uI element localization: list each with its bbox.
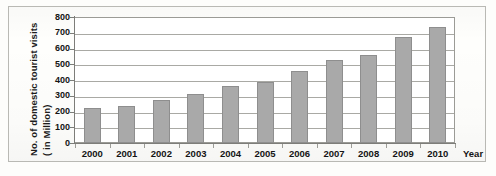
bar [222,86,239,143]
bar [429,27,446,143]
x-axis-tick-labels: 2000200120022003200420052006200720082009… [75,148,455,162]
bar [153,100,170,143]
x-axis-tick [455,144,456,148]
y-axis-tick-label: 800 [30,13,70,22]
chart-screenshot: No. of domestic tourist visits ( in Mill… [0,0,496,176]
bar [395,37,412,143]
x-axis-tick-label: 2002 [144,148,178,159]
x-axis-tick-label: 2001 [110,148,144,159]
y-axis-tick-label: 200 [30,107,70,116]
x-axis-title: Year [463,148,483,159]
bar-series [75,17,455,143]
bar [257,82,274,143]
bar [360,55,377,143]
bar [84,108,101,143]
y-axis-tick-label: 500 [30,60,70,69]
x-axis-tick-label: 2005 [248,148,282,159]
y-axis-tick-label: 600 [30,44,70,53]
y-axis-tick-label: 100 [30,123,70,132]
x-axis-tick-label: 2007 [317,148,351,159]
bar [187,94,204,143]
x-axis-tick-label: 2000 [75,148,109,159]
x-axis-line [74,143,456,144]
bar [291,71,308,143]
bar-chart: No. of domestic tourist visits ( in Mill… [0,0,496,176]
x-axis-tick-label: 2004 [213,148,247,159]
y-axis-tick-label: 300 [30,91,70,100]
y-axis-tick-label: 0 [30,139,70,148]
y-axis-tick-label: 700 [30,28,70,37]
y-axis-tick-labels: 8007006005004003002001000 [26,0,70,176]
bar [118,106,135,143]
x-axis-tick-label: 2010 [421,148,455,159]
x-axis-tick-label: 2006 [283,148,317,159]
x-axis-tick-label: 2008 [352,148,386,159]
x-axis-tick-label: 2003 [179,148,213,159]
x-axis-tick-label: 2009 [386,148,420,159]
bar [326,60,343,143]
y-axis-tick-label: 400 [30,76,70,85]
